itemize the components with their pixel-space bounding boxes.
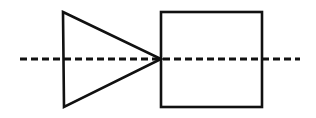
diagram-canvas [0,0,316,118]
geometry-diagram [0,0,316,118]
